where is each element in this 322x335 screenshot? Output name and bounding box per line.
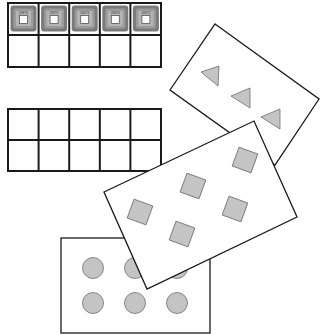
unit-tile: UNITS xyxy=(41,6,67,32)
filled-ten-frame: UNITS UNITS UNITS UNITS xyxy=(8,3,161,67)
unit-tile: UNITS xyxy=(102,6,128,32)
tile-label: UNITS xyxy=(50,11,59,15)
circle-shape xyxy=(167,293,188,314)
tile-label: UNITS xyxy=(80,11,89,15)
unit-tile: UNITS xyxy=(133,6,159,32)
worksheet-canvas: UNITS UNITS UNITS UNITS xyxy=(0,0,322,335)
empty-ten-frame xyxy=(8,109,161,171)
circle-shape xyxy=(83,258,104,279)
tile-label: UNITS xyxy=(111,11,120,15)
tile-label: UNITS xyxy=(19,11,28,15)
unit-tile: UNITS xyxy=(11,6,37,32)
circle-shape xyxy=(83,293,104,314)
unit-tile: UNITS xyxy=(72,6,98,32)
circle-shape xyxy=(125,293,146,314)
tile-label: UNITS xyxy=(141,11,150,15)
